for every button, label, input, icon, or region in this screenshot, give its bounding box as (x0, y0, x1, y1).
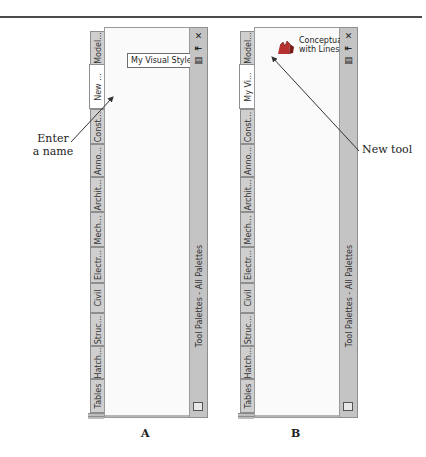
tab-hatch[interactable]: Hatch... (90, 346, 104, 379)
palette-caption: Tool Palettes - All Palettes (194, 245, 203, 347)
properties-icon[interactable]: ▤ (193, 55, 204, 65)
close-icon[interactable]: ✕ (193, 31, 204, 41)
palette-caption: Tool Palettes - All Palettes (344, 245, 353, 347)
top-rule (0, 16, 422, 18)
callout-arrows (0, 0, 426, 457)
tab-anno[interactable]: Anno... (90, 144, 104, 177)
tab-stack-line (88, 416, 104, 419)
tab-stack: Model... My Vi... Const... Anno... Archi… (238, 31, 254, 414)
panel-label-a: A (141, 427, 150, 440)
close-icon[interactable]: ✕ (343, 31, 354, 41)
tab-tables[interactable]: Tables (240, 379, 254, 413)
tab-const[interactable]: Const... (90, 109, 104, 144)
palette-menu-icon[interactable] (343, 402, 353, 411)
tab-electr[interactable]: Electr... (240, 247, 254, 283)
tab-archit[interactable]: Archit... (90, 177, 104, 212)
tab-stack-line (238, 416, 254, 419)
visual-style-icon (277, 39, 295, 55)
tab-struc[interactable]: Struc... (90, 313, 104, 346)
tab-stack: Model... New ... Const... Anno... Archit… (88, 31, 104, 414)
panel-label-b: B (291, 427, 300, 440)
content-bottom-edge (255, 415, 339, 417)
tab-archit[interactable]: Archit... (240, 177, 254, 212)
tool-palette-b: Model... My Vi... Const... Anno... Archi… (238, 27, 358, 418)
tab-const[interactable]: Const... (240, 109, 254, 144)
auto-hide-icon[interactable]: ⇤ (193, 43, 204, 53)
tab-tables[interactable]: Tables (90, 379, 104, 413)
callout-enter-name: Enter a name (28, 132, 78, 158)
tab-struc[interactable]: Struc... (240, 313, 254, 346)
tab-anno[interactable]: Anno... (240, 144, 254, 177)
tab-civil[interactable]: Civil (90, 283, 104, 313)
tab-hatch[interactable]: Hatch... (240, 346, 254, 379)
tab-electr[interactable]: Electr... (90, 247, 104, 283)
tab-my-visual-styles[interactable]: My Vi... (239, 64, 255, 109)
palette-title-bar[interactable]: ✕ ⇤ ▤ Tool Palettes - All Palettes (190, 27, 208, 418)
tool-label: Conceptual with Lines (299, 36, 344, 54)
palette-content: My Visual Styles (104, 27, 190, 418)
tool-palette-a: Model... New ... Const... Anno... Archit… (88, 27, 208, 418)
tab-new[interactable]: New ... (89, 64, 105, 109)
auto-hide-icon[interactable]: ⇤ (343, 43, 354, 53)
palette-menu-icon[interactable] (193, 402, 203, 411)
tab-model[interactable]: Model... (90, 31, 104, 65)
tab-mech[interactable]: Mech... (240, 212, 254, 247)
tab-model[interactable]: Model... (240, 31, 254, 65)
callout-new-tool: New tool (362, 143, 422, 156)
tab-mech[interactable]: Mech... (90, 212, 104, 247)
palette-name-field[interactable]: My Visual Styles (127, 53, 200, 68)
palette-title-bar[interactable]: ✕ ⇤ ▤ Tool Palettes - All Palettes (340, 27, 358, 418)
content-bottom-edge (105, 415, 189, 417)
tab-civil[interactable]: Civil (240, 283, 254, 313)
palette-content: Conceptual with Lines (254, 27, 340, 418)
properties-icon[interactable]: ▤ (343, 55, 354, 65)
